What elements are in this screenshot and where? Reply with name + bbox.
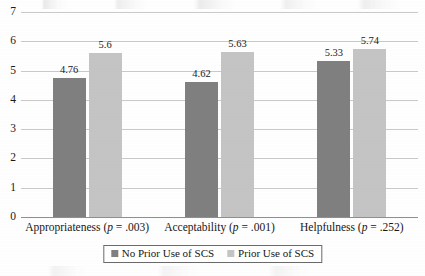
bar-chart-figure: 01234567 4.764.625.335.65.635.74 Appropr… xyxy=(0,0,425,276)
bar-value-label-1-2: 5.74 xyxy=(361,36,379,47)
bar-value-label-0-1: 4.62 xyxy=(192,69,210,80)
gridline-0: 0 xyxy=(21,217,418,218)
legend-entry-1: Prior Use of SCS xyxy=(227,248,314,259)
y-axis-tick-6: 6 xyxy=(10,36,16,48)
plot-area: 01234567 4.764.625.335.65.635.74 xyxy=(21,12,418,217)
bar-1-2 xyxy=(353,49,386,217)
bars-layer: 4.764.625.335.65.635.74 xyxy=(21,12,418,217)
bar-value-label-0-0: 4.76 xyxy=(60,65,78,76)
category-label-1: Acceptability (p = .001) xyxy=(164,222,275,234)
category-label-2: Helpfulness (p = .252) xyxy=(300,222,404,234)
page-bleed-bottom xyxy=(18,266,418,276)
chart-legend: No Prior Use of SCSPrior Use of SCS xyxy=(103,245,322,263)
legend-swatch-dark xyxy=(111,250,118,257)
page-bleed-top xyxy=(18,0,418,9)
y-axis-tick-7: 7 xyxy=(10,6,16,18)
bar-value-label-1-0: 5.6 xyxy=(99,40,112,51)
bar-1-1 xyxy=(221,52,254,217)
legend-label-0: No Prior Use of SCS xyxy=(122,248,214,259)
y-axis-tick-2: 2 xyxy=(10,153,16,165)
y-axis-tick-4: 4 xyxy=(10,94,16,106)
bar-1-0 xyxy=(89,53,122,217)
legend-entry-0: No Prior Use of SCS xyxy=(111,248,214,259)
category-axis-labels: Appropriateness (p = .003)Acceptability … xyxy=(21,222,418,238)
category-label-0: Appropriateness (p = .003) xyxy=(25,222,149,234)
y-axis-tick-5: 5 xyxy=(10,65,16,77)
legend-swatch-light xyxy=(227,250,234,257)
y-axis-tick-3: 3 xyxy=(10,123,16,135)
bar-0-2 xyxy=(317,61,350,217)
bar-value-label-1-1: 5.63 xyxy=(228,39,246,50)
bar-0-1 xyxy=(185,82,218,217)
y-axis-tick-1: 1 xyxy=(10,182,16,194)
bar-0-0 xyxy=(53,78,86,217)
bar-value-label-0-2: 5.33 xyxy=(325,48,343,59)
y-axis-tick-0: 0 xyxy=(10,211,16,223)
legend-label-1: Prior Use of SCS xyxy=(238,248,314,259)
